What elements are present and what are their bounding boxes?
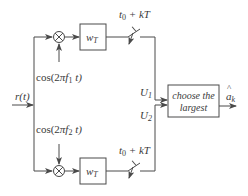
u1-label: U1 [140,86,152,100]
top-carrier-label: cos(2πf1 t) [36,71,82,85]
u2-label: U2 [140,109,152,123]
top-filter-label: wT [86,31,98,45]
fsk-receiver-diagram: r(t) cos(2πf1 t) cos(2πf2 t) wT wT t0 + … [0,0,248,196]
top-sampler-label: t0 + kT [119,8,151,22]
bottom-sampler-switch-icon [128,161,140,178]
top-sampler-switch-icon [128,27,140,44]
bottom-carrier-label: cos(2πf2 t) [36,123,82,137]
choose-largest-line1: choose the [172,90,215,101]
bottom-multiplier-icon [54,166,65,177]
input-label: r(t) [15,90,30,103]
bottom-filter-label: wT [86,165,98,179]
choose-largest-line2: largest [180,102,208,113]
output-label: ^ ak [226,83,236,104]
top-multiplier-icon [54,32,65,43]
svg-text:ak: ak [226,90,236,104]
bottom-sampler-label: t0 + kT [119,144,151,158]
